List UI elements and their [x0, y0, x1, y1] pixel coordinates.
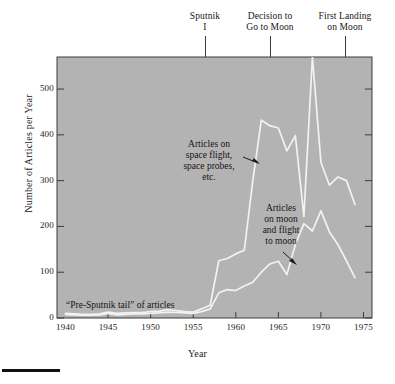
leader-line-decision: [270, 36, 271, 57]
leader-line-landing: [345, 36, 346, 57]
x-tick-label: 1975: [343, 322, 383, 332]
x-axis-title: Year: [0, 348, 395, 359]
x-tick-label: 1950: [131, 322, 171, 332]
x-tick-label: 1965: [258, 322, 298, 332]
x-tick-label: 1970: [301, 322, 341, 332]
x-tick-label: 1960: [216, 322, 256, 332]
x-tick-label: 1945: [88, 322, 128, 332]
x-tick-label: 1955: [173, 322, 213, 332]
figure-space-articles-chart: Sputnik I Decision to Go to Moon First L…: [0, 0, 395, 384]
y-tick-label: 100: [24, 266, 54, 276]
callout-landing: First Landing on Moon: [305, 11, 385, 33]
annotation-pre-sputnik-tail: “Pre-Sputnik tail” of articles: [66, 300, 174, 310]
x-tick-label: 1940: [46, 322, 86, 332]
bottom-rule: [2, 369, 60, 372]
leader-line-sputnik: [205, 36, 206, 57]
y-axis-title: Number of Articles per Year: [23, 54, 34, 254]
callout-decision: Decision to Go to Moon: [227, 11, 313, 33]
callout-sputnik: Sputnik I: [176, 11, 234, 33]
annotation-space-flight: Articles on space flight, space probes, …: [166, 139, 252, 183]
x-tick-labels: 19401945195019551960196519701975: [0, 322, 395, 342]
annotation-moon: Articles on moon and flight to moon: [250, 203, 312, 247]
y-tick-label: 0: [24, 312, 54, 322]
